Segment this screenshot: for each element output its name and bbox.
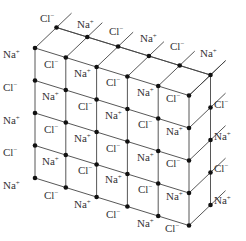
lattice-edges xyxy=(35,13,226,225)
ion-node xyxy=(94,97,99,102)
nacl-lattice-diagram: Cl−Na+Cl−Na+Cl−Na+Na+Cl−Na+Cl−Na+Cl−Cl−N… xyxy=(0,0,246,241)
front-row-line xyxy=(35,48,189,96)
sodium-ion-label: Na+ xyxy=(140,32,157,44)
sodium-ion-label: Na+ xyxy=(74,67,91,79)
ion-node xyxy=(208,203,213,208)
ion-node xyxy=(125,204,130,209)
ion-node xyxy=(94,130,99,135)
ion-node xyxy=(94,195,99,200)
ion-node xyxy=(33,46,38,51)
ion-node xyxy=(187,93,192,98)
ion-node xyxy=(177,63,182,68)
ion-node xyxy=(156,84,161,89)
chloride-ion-label: Cl− xyxy=(3,81,17,93)
sodium-ion-label: Na+ xyxy=(137,86,154,98)
ion-node xyxy=(156,116,161,121)
ion-node xyxy=(208,105,213,110)
ion-node xyxy=(64,120,69,125)
right-depth-line xyxy=(189,61,226,96)
ion-node xyxy=(187,223,192,228)
chloride-ion-label: Cl− xyxy=(78,164,92,176)
chloride-ion-label: Cl− xyxy=(44,189,58,201)
ion-node xyxy=(208,170,213,175)
ion-node xyxy=(156,149,161,154)
ion-node xyxy=(33,78,38,83)
chloride-ion-label: Cl− xyxy=(166,92,180,104)
ion-node xyxy=(187,158,192,163)
ion-node xyxy=(125,107,130,112)
chloride-ion-label: Cl− xyxy=(138,183,152,195)
sodium-ion-label: Na+ xyxy=(166,190,183,202)
ion-node xyxy=(116,44,121,49)
chloride-ion-label: Cl− xyxy=(166,157,180,169)
sodium-ion-label: Na+ xyxy=(214,130,231,142)
ion-node xyxy=(208,73,213,78)
ion-node xyxy=(64,153,69,158)
sodium-ion-label: Na+ xyxy=(3,48,20,60)
ion-node xyxy=(94,162,99,167)
sodium-ion-label: Na+ xyxy=(105,173,122,185)
ion-node xyxy=(125,139,130,144)
chloride-ion-label: Cl− xyxy=(106,142,120,154)
ion-node xyxy=(33,111,38,116)
ion-node xyxy=(208,138,213,143)
sodium-ion-label: Na+ xyxy=(137,217,154,229)
sodium-ion-label: Na+ xyxy=(42,90,59,102)
sodium-ion-label: Na+ xyxy=(3,179,20,191)
ion-node xyxy=(187,191,192,196)
sodium-ion-label: Na+ xyxy=(214,194,231,206)
ion-node xyxy=(85,35,90,40)
ion-node xyxy=(125,74,130,79)
chloride-ion-label: Cl− xyxy=(138,118,152,130)
ion-node xyxy=(187,126,192,131)
chloride-ion-label: Cl− xyxy=(44,58,58,70)
chloride-ion-label: Cl− xyxy=(214,162,228,174)
sodium-ion-label: Na+ xyxy=(74,198,91,210)
chloride-ion-label: Cl− xyxy=(170,40,184,52)
chloride-ion-label: Cl− xyxy=(44,123,58,135)
sodium-ion-label: Na+ xyxy=(105,109,122,121)
chloride-ion-label: Cl− xyxy=(109,25,123,37)
sodium-ion-label: Na+ xyxy=(77,18,94,30)
chloride-ion-label: Cl− xyxy=(165,222,179,234)
sodium-ion-label: Na+ xyxy=(42,155,59,167)
ion-node xyxy=(125,172,130,177)
ion-node xyxy=(94,65,99,70)
sodium-ion-label: Na+ xyxy=(200,47,217,59)
sodium-ion-label: Na+ xyxy=(166,125,183,137)
sodium-ion-label: Na+ xyxy=(3,114,20,126)
chloride-ion-label: Cl− xyxy=(78,100,92,112)
chloride-ion-label: Cl− xyxy=(40,12,54,24)
ion-node xyxy=(64,185,69,190)
chloride-ion-label: Cl− xyxy=(106,208,120,220)
chloride-ion-label: Cl− xyxy=(214,98,228,110)
sodium-ion-label: Na+ xyxy=(74,132,91,144)
chloride-ion-label: Cl− xyxy=(3,146,17,158)
ion-node xyxy=(147,54,152,59)
sodium-ion-label: Na+ xyxy=(137,151,154,163)
ion-node xyxy=(64,88,69,93)
ion-node xyxy=(156,181,161,186)
ion-node xyxy=(54,25,59,30)
chloride-ion-label: Cl− xyxy=(106,76,120,88)
ion-node xyxy=(33,176,38,181)
ion-node xyxy=(33,143,38,148)
ion-node xyxy=(64,55,69,60)
ion-node xyxy=(156,214,161,219)
